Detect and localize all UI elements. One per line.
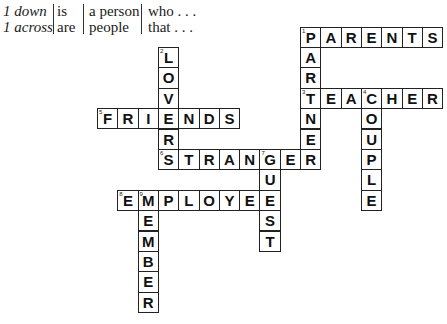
crossword-cell: A bbox=[320, 27, 341, 48]
clue-number: 8 bbox=[119, 191, 122, 198]
crossword-cell: 4C bbox=[361, 88, 382, 109]
cell-letter: S bbox=[224, 110, 234, 127]
cell-letter: E bbox=[265, 192, 275, 209]
cell-letter: A bbox=[305, 49, 316, 66]
crossword-cell: S bbox=[422, 27, 443, 48]
cell-letter: T bbox=[306, 90, 315, 107]
crossword-cell: E bbox=[300, 129, 321, 150]
crossword-cell: I bbox=[138, 108, 159, 129]
crossword-cell: 8E bbox=[117, 190, 138, 211]
crossword-cell: E bbox=[158, 108, 179, 129]
crossword-cell: D bbox=[199, 108, 220, 129]
cell-letter: T bbox=[184, 151, 193, 168]
cell-letter: R bbox=[143, 294, 154, 311]
crossword-cell: M bbox=[138, 231, 159, 252]
cell-letter: U bbox=[366, 131, 377, 148]
clue-number: 2 bbox=[160, 48, 163, 55]
cell-letter: P bbox=[367, 151, 377, 168]
cell-letter: N bbox=[386, 29, 397, 46]
cell-letter: R bbox=[305, 69, 316, 86]
cell-letter: Y bbox=[224, 192, 234, 209]
cell-letter: E bbox=[123, 192, 133, 209]
cell-letter: V bbox=[164, 90, 174, 107]
cell-letter: E bbox=[143, 212, 153, 229]
cell-letter: S bbox=[164, 151, 174, 168]
cell-letter: N bbox=[305, 110, 316, 127]
crossword-cell: N bbox=[381, 27, 402, 48]
crossword-cell: T bbox=[402, 27, 423, 48]
crossword-cell: N bbox=[239, 149, 260, 170]
crossword-cell: H bbox=[381, 88, 402, 109]
crossword-cell: S bbox=[219, 108, 240, 129]
cell-letter: F bbox=[103, 110, 112, 127]
cell-letter: E bbox=[407, 90, 417, 107]
crossword-cell: R bbox=[422, 88, 443, 109]
cell-letter: E bbox=[285, 151, 295, 168]
cell-letter: N bbox=[183, 110, 194, 127]
crossword-cell: A bbox=[300, 47, 321, 68]
crossword-cell: L bbox=[361, 169, 382, 190]
cell-letter: P bbox=[164, 192, 174, 209]
clue-number: 7 bbox=[261, 150, 264, 157]
crossword-cell: U bbox=[361, 129, 382, 150]
crossword-cell: R bbox=[199, 149, 220, 170]
cell-letter: N bbox=[244, 151, 255, 168]
crossword-cell: 3T bbox=[300, 88, 321, 109]
cell-letter: O bbox=[366, 110, 378, 127]
cell-letter: R bbox=[305, 151, 316, 168]
cell-letter: E bbox=[164, 110, 174, 127]
clue-number: 3 bbox=[302, 89, 305, 96]
cell-letter: R bbox=[427, 90, 438, 107]
cell-letter: O bbox=[203, 192, 215, 209]
crossword-cell: E bbox=[259, 190, 280, 211]
crossword-cell: E bbox=[138, 271, 159, 292]
cell-letter: E bbox=[326, 90, 336, 107]
crossword-cell: R bbox=[158, 129, 179, 150]
cell-letter: E bbox=[367, 29, 377, 46]
cell-letter: T bbox=[408, 29, 417, 46]
clue-number: 6 bbox=[160, 150, 163, 157]
crossword-cell: T bbox=[178, 149, 199, 170]
crossword-cell: 1P bbox=[300, 27, 321, 48]
crossword-cell: E bbox=[402, 88, 423, 109]
clue-number: 5 bbox=[99, 109, 102, 116]
crossword-cell: T bbox=[259, 231, 280, 252]
cell-letter: I bbox=[146, 110, 150, 127]
cell-letter: M bbox=[142, 233, 155, 250]
clue-number: 9 bbox=[140, 191, 143, 198]
crossword-cell: Y bbox=[219, 190, 240, 211]
cell-letter: E bbox=[143, 273, 153, 290]
crossword-cell: E bbox=[280, 149, 301, 170]
crossword-cell: A bbox=[219, 149, 240, 170]
crossword-cell: 6S bbox=[158, 149, 179, 170]
crossword-cell: N bbox=[300, 108, 321, 129]
crossword-cell: E bbox=[239, 190, 260, 211]
cell-letter: B bbox=[143, 253, 154, 270]
cell-letter: L bbox=[164, 49, 173, 66]
cell-letter: O bbox=[163, 69, 175, 86]
crossword-cell: V bbox=[158, 88, 179, 109]
crossword-cell: N bbox=[178, 108, 199, 129]
cell-letter: E bbox=[245, 192, 255, 209]
clue-number: 1 bbox=[302, 28, 305, 35]
cell-letter: U bbox=[265, 171, 276, 188]
crossword-cell: 7G bbox=[259, 149, 280, 170]
crossword-cell: O bbox=[199, 190, 220, 211]
cell-letter: C bbox=[366, 90, 377, 107]
cell-letter: S bbox=[427, 29, 437, 46]
cell-letter: D bbox=[204, 110, 215, 127]
crossword-cell: E bbox=[320, 88, 341, 109]
crossword-cell: R bbox=[138, 292, 159, 313]
crossword-cell: E bbox=[361, 27, 382, 48]
cell-letter: R bbox=[163, 131, 174, 148]
cell-letter: P bbox=[306, 29, 316, 46]
cell-letter: S bbox=[265, 212, 275, 229]
crossword-cell: R bbox=[117, 108, 138, 129]
cell-letter: R bbox=[204, 151, 215, 168]
cell-letter: L bbox=[367, 171, 376, 188]
crossword-cell: 9M bbox=[138, 190, 159, 211]
crossword-cell: O bbox=[361, 108, 382, 129]
cell-letter: H bbox=[386, 90, 397, 107]
cell-letter: A bbox=[224, 151, 235, 168]
crossword-cell: R bbox=[300, 149, 321, 170]
